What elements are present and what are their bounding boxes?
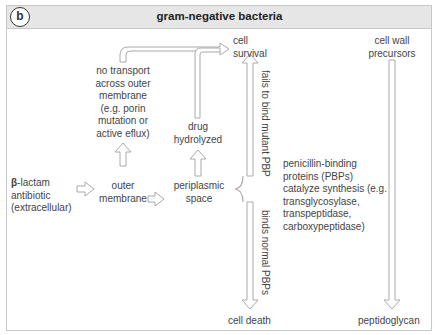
fails-to-bind-label: fails to bind mutant PBP [260,70,271,177]
arrow-up-icon [242,54,258,176]
arrow-right-icon [77,182,94,196]
pbp-description: penicillin-binding proteins (PBPs) catal… [283,158,387,233]
cell-wall-precursors-label: cell wall precursors [360,35,424,60]
cell-survival-label: cell survival [233,35,267,60]
drug-hydrolyzed-label: drug hydrolyzed [168,121,228,146]
beta-lactam-label: β-lactam antibiotic (extracellular) [11,177,72,215]
arrow-up-icon [190,150,206,176]
arrow-up-icon [115,143,131,166]
periplasmic-space-label: periplasmic space [165,180,233,205]
brace-icon [235,176,243,202]
binds-normal-label: binds normal PBPs [260,210,271,295]
arrow-down-icon [242,202,258,309]
peptidoglycan-label: peptidoglycan [358,315,420,328]
outer-membrane-label: outer membrane [95,180,151,205]
no-transport-label: no transport across outer membrane (e.g.… [85,65,161,140]
connector-line [195,48,220,118]
cell-death-label: cell death [228,315,271,328]
